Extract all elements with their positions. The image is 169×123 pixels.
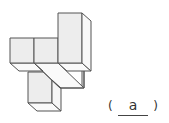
block-left-front bbox=[10, 38, 34, 63]
answer-field[interactable]: ( a ) bbox=[106, 96, 160, 118]
answer-blank[interactable]: a bbox=[118, 96, 148, 116]
close-paren: ) bbox=[153, 99, 158, 113]
block-middle-front bbox=[34, 38, 58, 63]
open-paren: ( bbox=[108, 99, 113, 113]
block-tall-front bbox=[58, 13, 82, 63]
block-tall-side bbox=[82, 13, 91, 71]
